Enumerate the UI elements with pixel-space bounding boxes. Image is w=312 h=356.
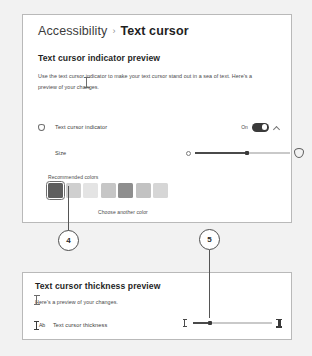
color-swatch[interactable] [83, 183, 98, 198]
size-label: Size [55, 150, 66, 156]
thickness-preview-description: Here's a preview of your changes. [35, 297, 118, 308]
breadcrumb-separator-icon: › [112, 26, 115, 36]
thin-cursor-icon [183, 319, 189, 327]
thick-cursor-icon [276, 319, 283, 328]
size-large-icon [294, 148, 304, 158]
recommended-colors-list [48, 183, 168, 198]
text-cursor-thickness-label: Text cursor thickness [53, 322, 107, 328]
ab-cursor-icon: Ab [35, 322, 45, 328]
size-slider-thumb[interactable] [245, 151, 249, 155]
choose-another-color-button[interactable]: Choose another color [98, 209, 148, 215]
cursor-indicator-icon [38, 124, 51, 131]
text-cursor-indicator-label: Text cursor indicator [55, 124, 107, 130]
chevron-up-icon[interactable] [274, 125, 279, 130]
callout-4-marker: 4 [58, 230, 79, 251]
text-cursor-thickness-row: Ab Text cursor thickness [35, 317, 107, 333]
size-slider-track[interactable] [195, 152, 290, 154]
thickness-slider-thumb[interactable] [208, 321, 212, 325]
size-small-icon [186, 151, 191, 156]
size-slider[interactable] [186, 146, 304, 160]
text-cursor-indicator-panel: Accessibility › Text cursor Text cursor … [22, 14, 292, 223]
indicator-preview-heading: Text cursor indicator preview [38, 53, 160, 63]
text-caret-icon [86, 77, 87, 88]
color-swatch[interactable] [136, 183, 151, 198]
color-swatch[interactable] [153, 183, 168, 198]
ab-icon-text: Ab [39, 322, 45, 328]
callout-5-marker: 5 [199, 229, 220, 250]
size-slider-fill [195, 152, 247, 154]
breadcrumb-parent-link[interactable]: Accessibility [38, 24, 107, 38]
text-cursor-indicator-toggle[interactable] [252, 123, 269, 132]
thickness-slider[interactable] [183, 316, 283, 330]
screenshot-root: Accessibility › Text cursor Text cursor … [0, 0, 312, 356]
text-cursor-thickness-panel: Text cursor thickness preview Here's a p… [22, 272, 292, 340]
thickness-slider-track[interactable] [193, 322, 272, 324]
color-swatch[interactable] [101, 183, 116, 198]
breadcrumb: Accessibility › Text cursor [38, 24, 189, 38]
toggle-state-label: On [241, 124, 248, 130]
recommended-colors-label: Recommended colors [48, 174, 98, 180]
callout-5-leader-line [209, 250, 210, 318]
indicator-preview-description: Use the text cursor indicator to make yo… [38, 71, 264, 92]
color-swatch[interactable] [118, 183, 133, 198]
thickness-preview-heading: Text cursor thickness preview [35, 281, 161, 291]
page-title: Text cursor [120, 24, 188, 38]
callout-4-leader-line [68, 186, 69, 232]
color-swatch[interactable] [48, 183, 63, 198]
text-cursor-indicator-toggle-group[interactable]: On [241, 119, 279, 135]
toggle-knob [262, 124, 268, 130]
text-caret-icon [36, 295, 37, 305]
